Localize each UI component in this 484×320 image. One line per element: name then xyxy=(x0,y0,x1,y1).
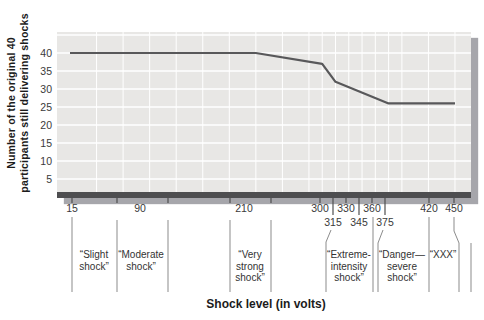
shock-category-label: “XXX” xyxy=(401,249,484,261)
x-tick-label: 90 xyxy=(120,202,160,214)
shock-category-label-line: severe xyxy=(360,261,444,273)
y-tick-label: 20 xyxy=(26,119,52,131)
y-tick-label: 30 xyxy=(26,83,52,95)
x-tick-label: 15 xyxy=(52,202,92,214)
y-tick-label: 40 xyxy=(26,47,52,59)
obedience-line xyxy=(70,53,455,103)
y-tick-label: 10 xyxy=(26,155,52,167)
milgram-obedience-figure: Number of the original 40 participants s… xyxy=(0,0,484,320)
horizontal-gridlines xyxy=(57,35,471,179)
shock-category-label-line: shock” xyxy=(360,272,444,284)
x-tick-label: 450 xyxy=(434,202,474,214)
y-tick-label: 25 xyxy=(26,101,52,113)
shock-category-label-line: “XXX” xyxy=(401,249,484,261)
x-tick-label: 210 xyxy=(224,202,264,214)
shock-category-label-line: shock” xyxy=(208,272,292,284)
x-axis-title: Shock level (in volts) xyxy=(176,297,356,311)
x-tick-label: 360 xyxy=(352,202,392,214)
shock-category-label: “Verystrongshock” xyxy=(208,249,292,284)
shock-category-label: “Moderateshock” xyxy=(99,249,183,272)
y-tick-label: 15 xyxy=(26,137,52,149)
y-tick-label: 35 xyxy=(26,65,52,77)
y-tick-label: 5 xyxy=(26,173,52,185)
shock-category-label-line: strong xyxy=(208,261,292,273)
shock-category-label-line: “Very xyxy=(208,249,292,261)
x-tick-label: 375 xyxy=(365,216,405,228)
shock-category-label-line: “Moderate xyxy=(99,249,183,261)
shock-category-label-line: shock” xyxy=(99,261,183,273)
